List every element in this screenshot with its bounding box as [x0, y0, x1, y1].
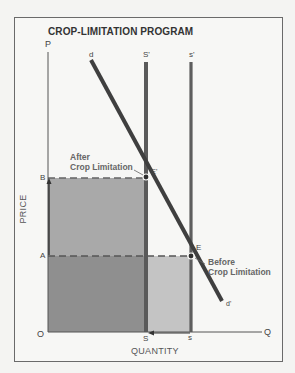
- leader-after: [134, 170, 143, 175]
- demand-top-label: d: [89, 50, 93, 59]
- before-note-line1: Before: [208, 257, 271, 267]
- y-axis-title: PRICE: [18, 194, 28, 223]
- origin-label: O: [37, 329, 44, 339]
- price-b-label: B: [40, 173, 45, 182]
- after-note: After Crop Limitation: [70, 152, 133, 172]
- equilibrium-after-dot: [143, 174, 149, 180]
- before-note: Before Crop Limitation: [208, 257, 271, 277]
- region-after-revenue-upper: [48, 178, 146, 256]
- supply-restricted-label: S': [143, 50, 150, 59]
- price-a-label: A: [40, 251, 45, 260]
- equilibrium-before-dot: [188, 253, 194, 259]
- after-note-line1: After: [70, 152, 133, 162]
- x-axis-title: QUANTITY: [131, 346, 179, 356]
- p-axis-label: P: [45, 39, 51, 49]
- demand-bottom-label: d': [226, 300, 231, 307]
- region-overlap-revenue: [48, 256, 146, 332]
- equilibrium-after-label: E': [151, 167, 157, 176]
- quantity-s-restricted-label: S: [143, 334, 148, 343]
- quantity-s-original-label: s: [188, 333, 192, 342]
- after-note-line2: Crop Limitation: [70, 162, 133, 172]
- equilibrium-before-label: E: [196, 243, 201, 252]
- q-axis-label: Q: [264, 327, 271, 337]
- supply-original-label: s': [189, 50, 195, 59]
- before-note-line2: Crop Limitation: [208, 267, 271, 277]
- region-lost-revenue: [146, 256, 191, 332]
